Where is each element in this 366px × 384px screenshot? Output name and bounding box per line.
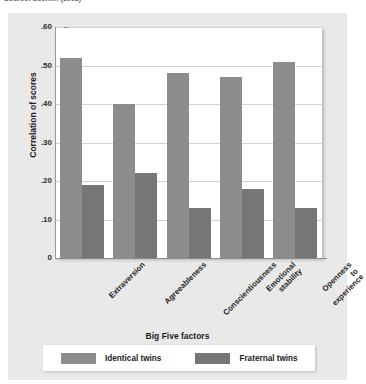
y-axis-ticks: .60.50.40.30.20.100: [14, 0, 52, 384]
legend-swatch: [195, 353, 230, 364]
bar-fraternal-twins: [82, 185, 104, 258]
y-tick-mark: [64, 220, 68, 221]
plot-area: [55, 27, 322, 258]
x-category-label: Agreeableness: [163, 261, 208, 306]
x-category-label: Extraversion: [108, 261, 147, 300]
y-tick-mark: [64, 258, 68, 259]
y-tick-mark: [64, 104, 68, 105]
y-axis-title: Correlation of scores: [28, 60, 38, 170]
y-tick-mark: [64, 27, 68, 28]
legend-label: Fraternal twins: [239, 354, 297, 363]
bar-identical-twins: [273, 62, 295, 258]
x-axis-categories: ExtraversionAgreeablenessConscientiousne…: [0, 261, 355, 323]
y-axis-line: [55, 27, 56, 259]
bar-fraternal-twins: [189, 208, 211, 258]
y-tick-mark: [64, 181, 68, 182]
x-axis-line: [55, 258, 327, 259]
bar-identical-twins: [220, 77, 242, 258]
x-axis-title: Big Five factors: [0, 331, 355, 341]
bars-layer: [55, 27, 322, 258]
legend-item[interactable]: Identical twins: [61, 353, 161, 364]
chart-legend: Identical twinsFraternal twins: [43, 345, 315, 371]
y-tick-label: .60: [14, 22, 52, 31]
legend-label: Identical twins: [105, 354, 161, 363]
legend-swatch: [61, 353, 96, 364]
y-tick-mark: [64, 143, 68, 144]
bar-fraternal-twins: [135, 173, 157, 258]
bar-identical-twins: [113, 104, 135, 258]
bar-fraternal-twins: [242, 189, 264, 258]
y-tick-mark: [64, 66, 68, 67]
bar-fraternal-twins: [295, 208, 317, 258]
y-tick-label: .20: [14, 176, 52, 185]
y-tick-label: .10: [14, 215, 52, 224]
bar-identical-twins: [60, 58, 82, 258]
x-category-label: Opennesstoexperience: [319, 261, 366, 308]
legend-item[interactable]: Fraternal twins: [195, 353, 297, 364]
bar-identical-twins: [167, 73, 189, 258]
